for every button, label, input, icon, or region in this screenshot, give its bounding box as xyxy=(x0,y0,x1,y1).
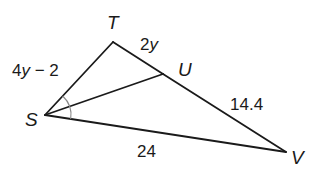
vertex-label-t: T xyxy=(107,12,120,33)
vertex-label-s: S xyxy=(25,109,38,130)
vertex-label-v: V xyxy=(291,147,306,168)
tu-var: y xyxy=(148,35,159,54)
vertex-label-u: U xyxy=(178,59,192,80)
segment-su-bisector xyxy=(45,74,163,115)
triangle-diagram: T U S V 4y − 2 2y 14.4 24 xyxy=(0,0,312,169)
st-rest: − 2 xyxy=(30,61,59,80)
segment-label-tu: 2y xyxy=(140,35,159,54)
segment-label-sv: 24 xyxy=(137,142,156,161)
segment-label-st: 4y − 2 xyxy=(12,61,59,80)
segment-sv xyxy=(45,115,286,152)
tu-coef: 2 xyxy=(140,35,149,54)
segment-label-uv: 14.4 xyxy=(230,95,263,114)
segment-uv xyxy=(163,74,286,152)
st-coef: 4 xyxy=(12,61,21,80)
